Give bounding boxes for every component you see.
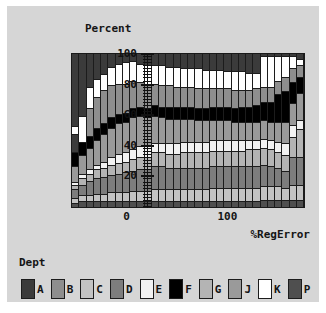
y-axis-minor-tick (143, 105, 152, 106)
bar-segment-B (282, 78, 288, 92)
y-axis-minor-tick (143, 68, 152, 69)
y-axis-tick-label: 80 (115, 77, 137, 90)
y-axis-tick-label: 40 (115, 138, 137, 151)
legend-item-D[interactable]: D (110, 279, 133, 299)
bar-segment-B (203, 89, 209, 109)
legend-label-B: B (67, 283, 74, 296)
bar-segment-A (246, 54, 252, 74)
bar-segment-P (224, 202, 230, 207)
bar-segment-P (181, 202, 187, 207)
bar-segment-J (268, 123, 274, 141)
bar-segment-D (166, 169, 172, 190)
bar-segment-B (188, 88, 194, 108)
bar-segment-B (94, 98, 100, 129)
stacked-bar-column (232, 54, 239, 207)
bar-segment-J (282, 123, 288, 144)
bar-segment-K (87, 88, 93, 109)
bar-segment-B (239, 91, 245, 108)
plot-area (71, 53, 305, 208)
y-axis-minor-tick (143, 120, 152, 121)
legend-item-B[interactable]: B (51, 279, 74, 299)
stacked-bar-column (72, 54, 79, 207)
bar-segment-D (239, 167, 245, 188)
stacked-bar-column (174, 54, 181, 207)
x-axis-title: %RegError (250, 228, 310, 241)
bar-segment-K (210, 71, 216, 89)
y-axis-minor-tick (143, 154, 152, 155)
y-axis-minor-tick (143, 130, 152, 131)
legend-item-P[interactable]: P (288, 279, 311, 299)
y-axis-minor-tick (143, 169, 152, 170)
y-axis-minor-tick (143, 200, 152, 201)
bar-segment-C (297, 186, 303, 201)
bar-segment-C (188, 190, 194, 202)
legend-item-K[interactable]: K (258, 279, 281, 299)
y-axis-minor-tick (143, 188, 152, 189)
bar-segment-F (101, 124, 107, 135)
legend-item-C[interactable]: C (80, 279, 103, 299)
legend-item-E[interactable]: E (140, 279, 163, 299)
bar-segment-B (224, 89, 230, 107)
bar-segment-C (101, 195, 107, 203)
legend-item-A[interactable]: A (21, 279, 44, 299)
bar-segment-K (188, 69, 194, 87)
bar-segment-J (275, 123, 281, 143)
bar-segment-E (275, 143, 281, 154)
bar-segment-J (246, 123, 252, 141)
y-axis-minor-tick (143, 111, 152, 112)
bar-segment-D (195, 169, 201, 190)
y-axis-minor-tick (143, 93, 152, 94)
bar-segment-P (239, 202, 245, 207)
bar-segment-D (297, 158, 303, 186)
bar-segment-F (181, 108, 187, 120)
y-axis-minor-tick (143, 126, 152, 127)
bar-segment-K (79, 117, 85, 143)
bar-segment-G (188, 153, 194, 168)
bar-segment-F (297, 78, 303, 93)
y-axis-major-tick (141, 145, 154, 147)
bar-segment-A (195, 54, 201, 69)
y-axis-major-tick (141, 114, 154, 116)
bar-segment-F (282, 92, 288, 123)
bar-segment-K (232, 72, 238, 90)
bar-segment-C (123, 193, 129, 202)
bar-segment-C (94, 195, 100, 203)
y-axis-minor-tick (143, 197, 152, 198)
legend-item-F[interactable]: F (169, 279, 192, 299)
bar-segment-D (210, 167, 216, 188)
bar-segment-F (290, 83, 296, 104)
bar-segment-J (72, 167, 78, 182)
y-axis-major-tick (141, 175, 154, 177)
bar-segment-C (261, 187, 267, 201)
bar-segment-A (72, 54, 78, 127)
chart-canvas: Percent 0100 %RegError Dept ABCDEFGJKP 2… (7, 6, 319, 302)
bar-segment-E (123, 153, 129, 162)
y-axis-tick-label: 20 (115, 169, 137, 182)
bar-segment-D (79, 186, 85, 197)
bar-segment-D (261, 166, 267, 187)
bar-segment-P (79, 202, 85, 207)
y-axis-minor-tick (143, 74, 152, 75)
bar-segment-P (282, 201, 288, 207)
bar-segment-G (195, 153, 201, 168)
stacked-bar-column (224, 54, 231, 207)
bar-segment-K (268, 57, 274, 88)
legend-item-J[interactable]: J (228, 279, 251, 299)
bar-segment-J (253, 123, 259, 141)
bar-segment-K (152, 66, 158, 84)
bar-segment-P (232, 202, 238, 207)
bar-segment-J (203, 121, 209, 142)
stacked-bar-column (79, 54, 86, 207)
bar-segment-K (181, 69, 187, 87)
bar-segment-D (268, 167, 274, 187)
bar-segment-J (195, 121, 201, 142)
bar-segment-E (290, 126, 296, 138)
bar-segment-G (203, 153, 209, 168)
y-axis (147, 53, 148, 208)
bar-segment-A (224, 54, 230, 72)
y-axis-minor-tick (143, 166, 152, 167)
legend-item-G[interactable]: G (199, 279, 222, 299)
bar-segment-C (159, 190, 165, 202)
stacked-bar-column (152, 54, 159, 207)
stacked-bar-column (239, 54, 246, 207)
